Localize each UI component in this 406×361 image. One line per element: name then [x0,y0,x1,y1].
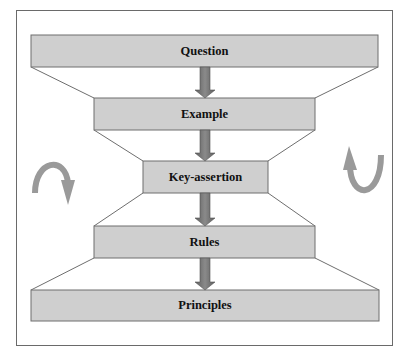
level-label-key-assertion: Key-assertion [143,161,268,193]
down-arrow-icon [195,67,215,98]
level-label-rules: Rules [94,226,315,258]
level-label-question: Question [31,35,378,67]
level-label-principles: Principles [31,290,379,321]
down-arrow-icon [195,258,215,290]
cycle-arrow-up-icon [343,146,381,190]
down-arrow-icon [195,130,215,161]
down-arrow-icon [195,193,215,226]
level-label-example: Example [94,98,315,130]
cycle-arrow-down-icon [35,165,75,205]
